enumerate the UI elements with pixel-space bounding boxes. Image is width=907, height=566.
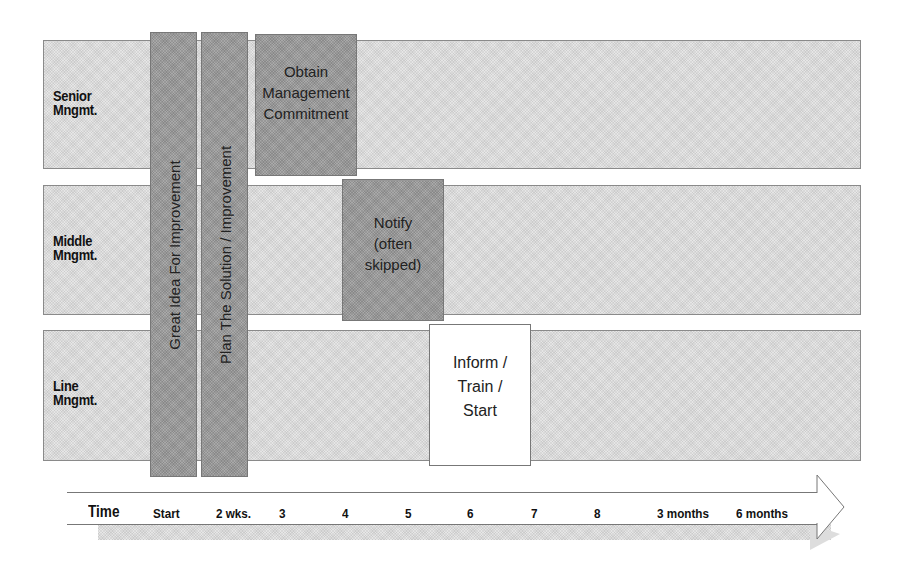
step-plan-solution-label: Plan The Solution / Improvement (216, 145, 233, 363)
step-obtain-commitment: Obtain Management Commitment (255, 34, 357, 176)
lane-label-line: Line Mngmt. (53, 379, 97, 407)
tick-5: 5 (405, 506, 412, 521)
step-great-idea: Great Idea For Improvement (150, 32, 197, 477)
lane-label-line1: Line (53, 379, 97, 393)
tick-8: 8 (594, 506, 601, 521)
tick-4: 4 (342, 506, 349, 521)
step-inform-train-start-label: Inform / Train / Start (453, 351, 507, 423)
lane-label-senior: Senior Mngmt. (53, 89, 97, 117)
lane-label-line1: Middle (53, 234, 97, 248)
timeline-title: Time (88, 503, 120, 521)
tick-6: 6 (467, 506, 474, 521)
timeline-arrowhead (816, 474, 846, 544)
tick-7: 7 (531, 506, 538, 521)
step-obtain-commitment-label: Obtain Management Commitment (262, 61, 350, 124)
lane-label-line2: Mngmt. (53, 103, 97, 117)
tick-6-months: 6 months (736, 506, 788, 521)
tick-3-months: 3 months (657, 506, 709, 521)
step-great-idea-label: Great Idea For Improvement (165, 160, 182, 349)
timeline-arrow-shadow (98, 524, 831, 540)
tick-3: 3 (279, 506, 286, 521)
step-inform-train-start: Inform / Train / Start (429, 324, 531, 466)
tick-2-wks: 2 wks. (216, 506, 251, 521)
lane-label-line1: Senior (53, 89, 97, 103)
step-notify-label: Notify (often skipped) (365, 212, 422, 275)
step-notify: Notify (often skipped) (342, 179, 444, 321)
lane-label-line2: Mngmt. (53, 393, 97, 407)
tick-start: Start (153, 506, 180, 521)
lane-label-middle: Middle Mngmt. (53, 234, 97, 262)
step-plan-solution: Plan The Solution / Improvement (201, 32, 248, 477)
lane-label-line2: Mngmt. (53, 248, 97, 262)
